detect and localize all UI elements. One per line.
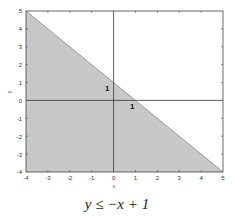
svg-text:-1: -1: [89, 175, 95, 181]
x-axis-label: x: [113, 183, 116, 189]
y-axis-label: y: [6, 90, 12, 93]
svg-text:-4: -4: [17, 169, 23, 175]
svg-text:-4: -4: [23, 175, 29, 181]
inequality-caption: y ≤ −x + 1: [0, 196, 234, 213]
svg-text:1: 1: [134, 175, 138, 181]
svg-text:1: 1: [19, 80, 23, 86]
svg-text:2: 2: [156, 175, 160, 181]
svg-text:-2: -2: [67, 175, 73, 181]
y-intercept-label: 1: [105, 84, 110, 93]
y-tick-labels: 5 4 3 2 1 0 -1 -2 -3 -4: [17, 8, 23, 175]
inequality-plot: -4 -3 -2 -1 0 1 2 3 4 5 5 4 3 2 1 0 -1 -…: [0, 0, 234, 218]
x-intercept-label: 1: [130, 102, 135, 111]
svg-text:3: 3: [19, 44, 23, 50]
svg-text:0: 0: [19, 98, 23, 104]
svg-text:5: 5: [19, 8, 23, 14]
svg-text:0: 0: [112, 175, 116, 181]
svg-text:2: 2: [19, 62, 23, 68]
svg-text:3: 3: [178, 175, 182, 181]
svg-text:-2: -2: [17, 134, 23, 140]
x-tick-labels: -4 -3 -2 -1 0 1 2 3 4 5: [23, 175, 225, 181]
svg-text:4: 4: [199, 175, 203, 181]
svg-text:4: 4: [19, 26, 23, 32]
svg-text:5: 5: [221, 175, 225, 181]
svg-text:-3: -3: [45, 175, 51, 181]
svg-text:-3: -3: [17, 152, 23, 158]
svg-text:-1: -1: [17, 116, 23, 122]
